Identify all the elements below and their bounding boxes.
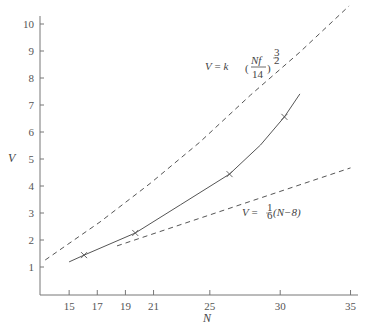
eq-upper-exp-den: 2 — [274, 54, 280, 66]
y-tick-label: 9 — [29, 45, 35, 57]
y-axis-title: V — [8, 151, 17, 165]
y-tick-label: 3 — [29, 207, 35, 219]
eq-upper-equals: = — [212, 60, 224, 72]
y-tick-label: 5 — [29, 153, 35, 165]
x-marker-icon — [227, 171, 233, 177]
lower-equation: V = 1 6 (N−8) — [242, 201, 301, 221]
upper-equation: V = k ( Nf 14 ) 3 2 — [205, 46, 280, 80]
data-markers — [81, 114, 287, 258]
chart: 12345678910 15171921253035 V N V = k ( N… — [0, 0, 369, 332]
x-axis-title: N — [202, 311, 212, 325]
svg-text:V =: V = — [242, 206, 258, 218]
eq-upper-left-paren: ( — [245, 62, 249, 75]
y-tick-label: 2 — [29, 234, 35, 246]
x-marker-icon — [281, 114, 287, 120]
x-tick-label: 15 — [64, 300, 76, 312]
eq-upper-numerator: Nf — [250, 54, 263, 66]
measured-solid-curve — [69, 94, 300, 262]
eq-upper-k: k — [223, 60, 229, 72]
eq-lower-rest: (N−8) — [273, 206, 301, 219]
eq-upper-denominator: 14 — [252, 68, 264, 80]
lower-dashed-line — [117, 168, 351, 246]
x-tick-label: 19 — [120, 300, 132, 312]
y-tick-label: 7 — [29, 99, 35, 111]
y-tick-label: 6 — [29, 126, 35, 138]
x-ticks: 15171921253035 — [64, 290, 357, 312]
y-tick-label: 4 — [29, 180, 35, 192]
x-marker-icon — [132, 230, 138, 236]
y-ticks: 12345678910 — [23, 18, 44, 273]
x-tick-label: 21 — [148, 300, 159, 312]
x-tick-label: 17 — [92, 300, 104, 312]
svg-text:V = k: V = k — [205, 60, 229, 72]
y-tick-label: 8 — [29, 72, 35, 84]
y-tick-label: 10 — [23, 18, 35, 30]
y-tick-label: 1 — [29, 261, 35, 273]
x-marker-icon — [81, 252, 87, 258]
x-tick-label: 35 — [345, 300, 357, 312]
eq-lower-equals: = — [249, 206, 258, 218]
upper-dashed-curve — [45, 6, 349, 260]
eq-upper-right-paren: ) — [267, 62, 271, 75]
x-tick-label: 30 — [275, 300, 287, 312]
